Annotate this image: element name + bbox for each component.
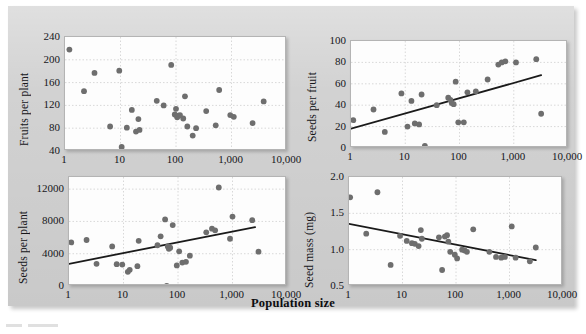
data-point [249, 217, 255, 223]
data-point [184, 124, 190, 130]
data-point [513, 255, 519, 261]
data-point [533, 56, 539, 62]
data-point [375, 189, 381, 195]
data-point [419, 236, 425, 242]
data-point [502, 254, 508, 260]
data-point [176, 248, 182, 254]
data-point [187, 253, 193, 259]
data-point [227, 236, 233, 242]
data-point [349, 194, 353, 200]
x-tick-label: 100 [167, 153, 184, 165]
x-tick-label: 1 [61, 153, 67, 165]
data-point [527, 258, 533, 264]
data-point [167, 245, 173, 251]
data-point [164, 283, 170, 284]
data-point [371, 107, 377, 113]
data-point [84, 237, 90, 243]
data-point [470, 226, 476, 232]
y-tick-label: 0 [292, 141, 346, 153]
data-point [193, 125, 199, 131]
data-point [231, 114, 237, 120]
y-tick-label: 120 [6, 98, 60, 110]
x-tick-label: 100 [447, 288, 464, 300]
data-point [183, 259, 189, 265]
data-point [451, 101, 457, 107]
data-point [382, 129, 388, 135]
y-tick-label: 12000 [10, 182, 64, 194]
y-tick-label: 0.5 [290, 279, 344, 291]
plot-area-fruits-per-plant [64, 36, 286, 150]
x-tick-label: 1,000 [500, 150, 525, 162]
data-point [203, 229, 209, 235]
data-point [119, 262, 125, 268]
data-point [461, 119, 467, 125]
y-tick-label: 40 [6, 144, 60, 156]
data-point [363, 231, 369, 237]
x-tick-label: 10,000 [552, 150, 582, 162]
data-point [465, 89, 471, 95]
data-point [135, 263, 141, 269]
y-tick-label: 20 [292, 120, 346, 132]
data-point [513, 60, 519, 66]
x-tick-label: 1 [347, 150, 353, 162]
y-tick-label: 100 [292, 34, 346, 46]
data-point [203, 108, 209, 114]
data-point [213, 122, 219, 128]
data-point [473, 88, 479, 94]
x-tick-label: 10 [114, 153, 125, 165]
y-tick-label: 240 [6, 30, 60, 42]
y-tick-label: 60 [292, 77, 346, 89]
data-point [190, 133, 196, 139]
x-tick-label: 100 [169, 288, 186, 300]
data-point [161, 103, 167, 109]
data-point [174, 263, 180, 269]
y-tick-label: 1.5 [290, 206, 344, 218]
data-point [114, 261, 120, 267]
x-tick-label: 1 [345, 288, 351, 300]
data-point [454, 255, 460, 261]
y-tick-label: 8000 [10, 214, 64, 226]
data-point [453, 79, 459, 85]
data-point [538, 111, 544, 117]
x-tick-label: 10,000 [547, 288, 577, 300]
data-point [404, 238, 410, 244]
data-point [216, 185, 222, 191]
data-point [136, 238, 142, 244]
y-tick-label: 4000 [10, 247, 64, 259]
data-point [399, 91, 405, 97]
data-point [409, 98, 415, 104]
data-point [137, 127, 143, 133]
data-point [493, 254, 499, 260]
data-point [455, 119, 461, 125]
data-point [124, 125, 130, 131]
data-point [256, 249, 262, 255]
x-tick-label: 10 [396, 288, 407, 300]
data-point [434, 102, 440, 108]
data-point [351, 117, 356, 123]
data-point [250, 120, 256, 126]
data-point [155, 242, 161, 248]
data-point [416, 243, 422, 249]
data-point [92, 70, 98, 76]
data-point [66, 47, 72, 53]
data-point [173, 106, 179, 112]
data-point [180, 116, 186, 122]
data-point [436, 234, 442, 240]
data-point [170, 222, 176, 228]
y-tick-label: 80 [6, 121, 60, 133]
data-point [109, 244, 115, 250]
data-point [533, 245, 539, 251]
data-point [502, 58, 508, 64]
y-tick-label: 200 [6, 53, 60, 65]
y-axis-label-seeds-per-plant: Seeds per plant [17, 182, 29, 284]
data-point [422, 143, 428, 146]
data-point [154, 98, 160, 104]
data-point [212, 227, 218, 233]
plot-area-seed-mass [348, 176, 562, 285]
data-point [486, 249, 492, 255]
data-point [405, 124, 411, 130]
data-point [127, 267, 133, 273]
x-tick-label: 1,000 [219, 288, 244, 300]
data-point [509, 224, 515, 230]
x-tick-label: 10 [117, 288, 128, 300]
